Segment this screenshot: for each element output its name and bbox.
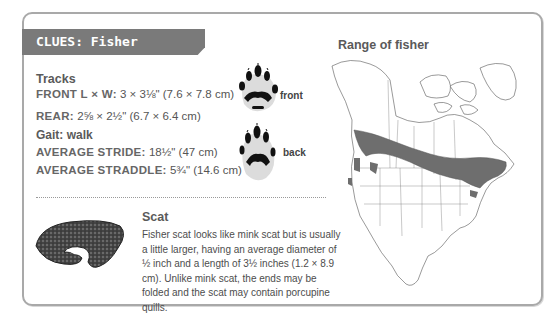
rear-measure: REAR: 2⅝ × 2½" (6.7 × 6.4 cm) [36,110,201,122]
front-label: FRONT L × W: [36,88,117,100]
stride-measure: AVERAGE STRIDE: 18½" (47 cm) [36,146,218,158]
front-print-label: front [280,90,303,101]
back-print-label: back [283,147,306,158]
rear-label: REAR: [36,110,74,122]
clues-header-band: CLUES: Fisher [22,29,205,55]
front-value: 3 × 3⅛" (7.6 × 7.8 cm) [120,88,234,100]
map-title: Range of fisher [338,38,429,52]
scat-illustration-icon [30,212,130,274]
scat-description: Fisher scat looks like mink scat but is … [142,228,342,316]
front-measure: FRONT L × W: 3 × 3⅛" (7.6 × 7.8 cm) [36,88,234,100]
range-map [330,56,545,296]
gait-label: Gait: walk [36,128,93,142]
clues-title: CLUES: Fisher [36,34,138,49]
front-paw-print-icon [236,62,280,114]
stride-value: 18½" (47 cm) [149,146,218,158]
stride-label: AVERAGE STRIDE: [36,146,146,158]
straddle-measure: AVERAGE STRADDLE: 5¾" (14.6 cm) [36,164,242,176]
straddle-label: AVERAGE STRADDLE: [36,164,167,176]
tracks-heading: Tracks [36,72,76,86]
rear-value: 2⅝ × 2½" (6.7 × 6.4 cm) [77,110,201,122]
scat-heading: Scat [142,210,168,224]
straddle-value: 5¾" (14.6 cm) [170,164,242,176]
section-divider [36,197,326,198]
back-paw-print-icon [236,120,280,184]
